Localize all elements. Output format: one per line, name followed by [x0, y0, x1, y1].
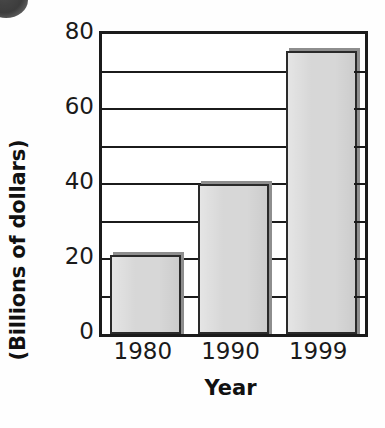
x-tick-label: 1999: [289, 338, 348, 364]
right-axis-tick: [354, 146, 365, 148]
x-tick-label: 1990: [201, 338, 260, 364]
x-axis-tick-labels: 198019901999: [99, 338, 362, 372]
right-axis-tick: [354, 108, 365, 110]
bar-1990: [198, 184, 269, 334]
right-axis-tick: [354, 221, 365, 223]
right-axis-tick: [354, 71, 365, 73]
right-axis-tick: [354, 258, 365, 260]
bar-1980: [110, 255, 181, 334]
bar-sheen: [200, 186, 267, 332]
bar-chart-figure: (Billions of dollars) 020406080 19801990…: [0, 0, 385, 428]
y-tick-label: 40: [38, 170, 94, 193]
x-tick-label: 1980: [114, 338, 173, 364]
x-axis-title: Year: [99, 376, 362, 400]
y-tick-label: 60: [38, 95, 94, 118]
y-axis-tick-labels: 020406080: [34, 0, 94, 428]
plot-area: [99, 31, 368, 337]
bar-sheen: [288, 53, 355, 332]
right-axis-tick: [354, 183, 365, 185]
plot-inner: [102, 34, 365, 334]
bar-sheen: [112, 257, 179, 332]
bar-1999: [286, 51, 357, 334]
y-tick-label: 20: [38, 245, 94, 268]
y-tick-label: 80: [38, 20, 94, 43]
right-axis-tick: [354, 296, 365, 298]
y-axis-title: (Billions of dollars): [0, 0, 36, 428]
y-tick-label: 0: [38, 320, 94, 343]
